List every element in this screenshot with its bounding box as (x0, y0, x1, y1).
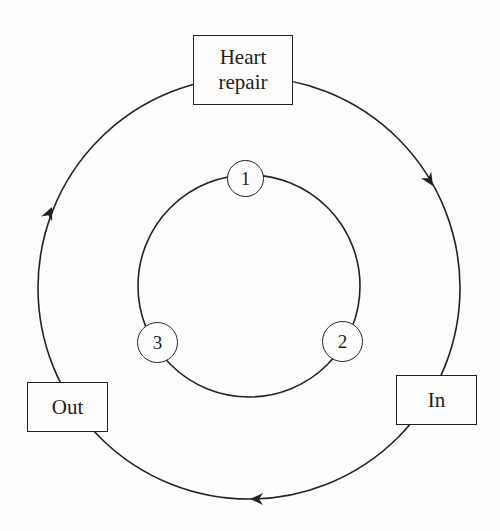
stage-box-out: Out (27, 382, 108, 432)
outer-cycle-ring (38, 77, 460, 499)
stage-label-heart-repair: Heart repair (219, 45, 268, 95)
inner-node-label: 3 (153, 332, 163, 354)
stage-label-in: In (428, 388, 446, 413)
inner-node-3: 3 (137, 322, 178, 363)
arrow-heart-to-in-icon (421, 172, 438, 189)
inner-node-1: 1 (227, 160, 264, 197)
inner-cycle-ring (138, 175, 360, 397)
stage-label-line: repair (219, 70, 268, 95)
stage-label-out: Out (52, 395, 84, 420)
inner-node-2: 2 (322, 321, 363, 362)
inner-node-label: 2 (338, 331, 348, 353)
stage-box-heart-repair: Heart repair (193, 35, 293, 105)
stage-box-in: In (396, 375, 477, 425)
inner-node-label: 1 (241, 168, 251, 190)
stage-label-line: Heart (219, 45, 268, 70)
